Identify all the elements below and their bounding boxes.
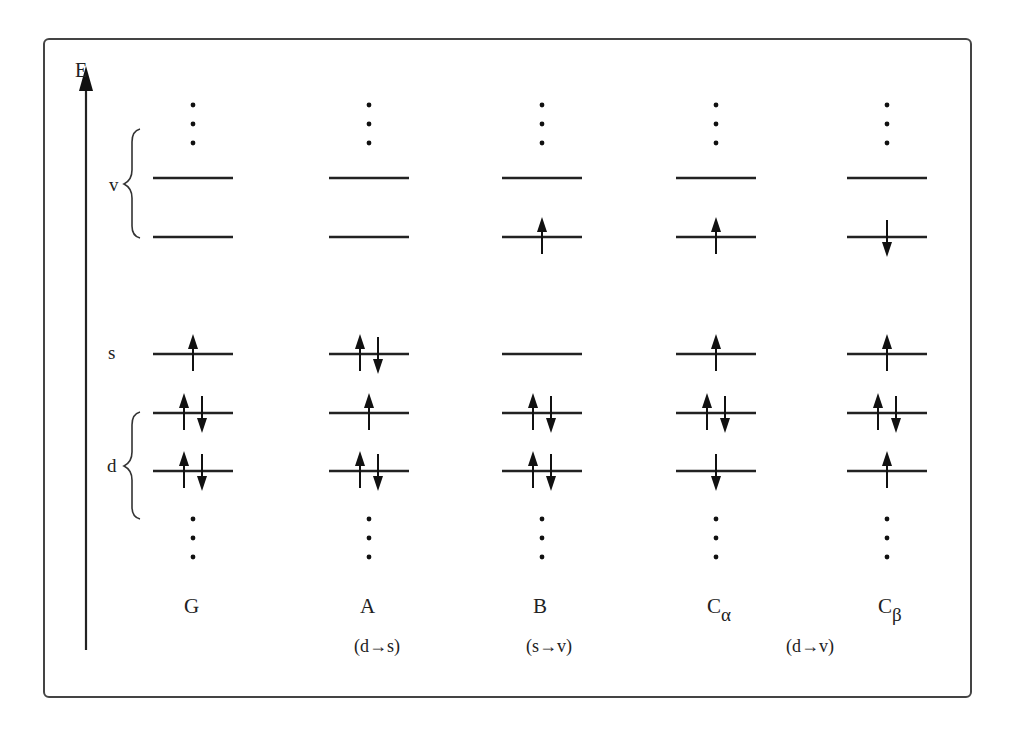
group-brace-v: v <box>109 129 140 238</box>
level-v1 <box>502 217 582 254</box>
spin-up-arrow-icon <box>179 451 189 488</box>
spin-up-arrow-icon <box>355 334 365 371</box>
column-subscript: α <box>721 604 731 625</box>
spin-up-arrow-icon <box>702 393 712 430</box>
ellipsis-top-icon <box>540 103 545 146</box>
group-label-v: v <box>109 174 119 195</box>
level-v1 <box>676 217 756 254</box>
column-G: G <box>153 103 233 618</box>
ellipsis-bottom-icon <box>367 517 372 560</box>
spin-down-arrow-icon <box>373 454 383 491</box>
transition-labels: (d→s)(s→v)(d→v) <box>354 636 834 657</box>
ellipsis-top-icon <box>714 103 719 146</box>
level-v1 <box>847 220 927 257</box>
spin-down-arrow-icon <box>720 396 730 433</box>
column-label: Cβ <box>878 594 902 625</box>
level-s <box>847 334 927 371</box>
column-label: A <box>360 594 376 618</box>
spin-down-arrow-icon <box>197 396 207 433</box>
level-d1 <box>502 451 582 491</box>
spin-up-arrow-icon <box>537 217 547 254</box>
spin-up-arrow-icon <box>179 393 189 430</box>
spin-down-arrow-icon <box>546 396 556 433</box>
transition-label: (d→v) <box>786 636 834 657</box>
axis-label-e: E <box>75 59 87 81</box>
column-label: G <box>184 594 199 618</box>
column-subscript: β <box>892 604 902 625</box>
column-A: A <box>329 103 409 618</box>
spin-up-arrow-icon <box>188 334 198 371</box>
column-Cb: Cβ <box>847 103 927 625</box>
spin-up-arrow-icon <box>364 393 374 430</box>
configuration-columns: GABCαCβ <box>153 103 927 625</box>
level-d1 <box>847 451 927 488</box>
level-d1 <box>329 451 409 491</box>
ellipsis-bottom-icon <box>191 517 196 560</box>
group-label-d: d <box>107 455 117 476</box>
spin-up-arrow-icon <box>873 393 883 430</box>
transition-label: (s→v) <box>526 636 572 657</box>
spin-down-arrow-icon <box>546 454 556 491</box>
level-s <box>153 334 233 371</box>
spin-down-arrow-icon <box>373 337 383 374</box>
ellipsis-bottom-icon <box>714 517 719 560</box>
group-label-s: s <box>108 342 115 363</box>
spin-up-arrow-icon <box>355 451 365 488</box>
ellipsis-top-icon <box>191 103 196 146</box>
spin-up-arrow-icon <box>528 451 538 488</box>
level-d2 <box>502 393 582 433</box>
spin-down-arrow-icon <box>891 396 901 433</box>
level-d2 <box>676 393 756 433</box>
level-d2 <box>329 393 409 430</box>
energy-level-diagram: E v s d GABCαCβ (d→s)(s→v)(d→v) <box>0 0 1013 737</box>
level-d1 <box>676 454 756 491</box>
spin-down-arrow-icon <box>197 454 207 491</box>
level-d2 <box>847 393 927 433</box>
ellipsis-bottom-icon <box>885 517 890 560</box>
spin-up-arrow-icon <box>711 217 721 254</box>
group-brace-d: d <box>107 412 140 519</box>
spin-down-arrow-icon <box>882 220 892 257</box>
transition-label: (d→s) <box>354 636 400 657</box>
ellipsis-top-icon <box>885 103 890 146</box>
column-label: B <box>533 594 547 618</box>
spin-up-arrow-icon <box>528 393 538 430</box>
level-d1 <box>153 451 233 491</box>
ellipsis-top-icon <box>367 103 372 146</box>
ellipsis-bottom-icon <box>540 517 545 560</box>
level-s <box>676 334 756 371</box>
spin-up-arrow-icon <box>882 451 892 488</box>
spin-up-arrow-icon <box>882 334 892 371</box>
spin-up-arrow-icon <box>711 334 721 371</box>
spin-down-arrow-icon <box>711 454 721 491</box>
column-B: B <box>502 103 582 618</box>
level-d2 <box>153 393 233 433</box>
level-s <box>329 334 409 374</box>
column-Ca: Cα <box>676 103 756 625</box>
column-label: Cα <box>707 594 731 625</box>
energy-axis: E <box>75 59 93 650</box>
